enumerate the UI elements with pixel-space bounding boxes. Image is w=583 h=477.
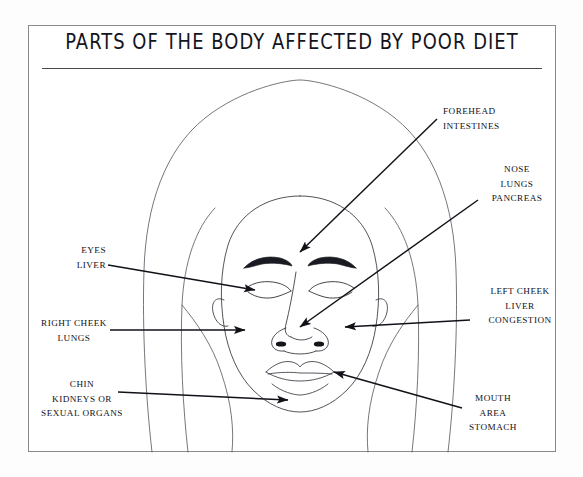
arrow-mouth xyxy=(334,372,462,408)
label-mouth: MOUTH AREA STOMACH xyxy=(462,391,524,435)
label-left-cheek-line-2: LIVER xyxy=(481,299,559,314)
eyebrows xyxy=(244,257,356,268)
label-right-cheek: RIGHT CHEEK LUNGS xyxy=(38,316,110,345)
label-right-cheek-line-2: LUNGS xyxy=(38,331,110,346)
label-chin-line-1: CHIN xyxy=(40,377,124,392)
label-nose-line-3: PANCREAS xyxy=(486,191,548,206)
arrow-chin xyxy=(118,392,288,400)
label-forehead-line-1: FOREHEAD xyxy=(443,104,500,119)
arrow-eyes xyxy=(108,265,255,290)
label-forehead: FOREHEAD INTESTINES xyxy=(443,104,500,133)
label-forehead-line-2: INTESTINES xyxy=(443,119,500,134)
eyes xyxy=(246,282,354,298)
label-left-cheek-line-3: CONGESTION xyxy=(481,313,559,328)
label-eyes-line-1: EYES xyxy=(48,243,106,258)
label-mouth-line-3: STOMACH xyxy=(462,420,524,435)
label-chin: CHIN KIDNEYS OR SEXUAL ORGANS xyxy=(40,377,124,421)
leader-arrows xyxy=(108,119,478,408)
arrow-forehead xyxy=(300,119,437,252)
label-eyes: EYES LIVER xyxy=(48,243,106,272)
label-nose: NOSE LUNGS PANCREAS xyxy=(486,162,548,206)
label-left-cheek: LEFT CHEEK LIVER CONGESTION xyxy=(481,284,559,328)
diagram-page: PARTS OF THE BODY AFFECTED BY POOR DIET xyxy=(0,0,583,477)
mouth xyxy=(266,361,334,395)
label-mouth-line-1: MOUTH xyxy=(462,391,524,406)
label-right-cheek-line-1: RIGHT CHEEK xyxy=(38,316,110,331)
label-eyes-line-2: LIVER xyxy=(48,258,106,273)
label-nose-line-2: LUNGS xyxy=(486,177,548,192)
arrow-left-cheek xyxy=(345,320,470,327)
hair-outline xyxy=(143,80,456,452)
label-left-cheek-line-1: LEFT CHEEK xyxy=(481,284,559,299)
label-mouth-line-2: AREA xyxy=(462,406,524,421)
label-nose-line-1: NOSE xyxy=(486,162,548,177)
label-chin-line-3: SEXUAL ORGANS xyxy=(40,406,124,421)
label-chin-line-2: KIDNEYS OR xyxy=(40,392,124,407)
